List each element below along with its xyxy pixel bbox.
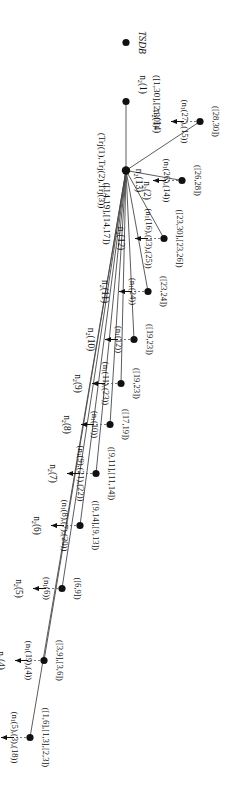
node-dot-leaf-10 xyxy=(160,234,167,241)
node-interval-n213: ([26,28]) xyxy=(194,165,203,196)
node-members-n212: (n1(16),(13),(25)) xyxy=(143,208,153,268)
node-dot-leaf-11 xyxy=(178,176,185,183)
node-label-n28: n2(8) xyxy=(61,415,71,434)
node-interval-n23: ([1,6],[1,3],[2,3]) xyxy=(42,707,51,766)
node-label-n25: n2(5) xyxy=(13,579,23,598)
node-interval-n29: ([19,23]) xyxy=(133,368,142,399)
node-label-n211: n2(11) xyxy=(99,279,109,302)
node-dot-mid xyxy=(122,97,129,104)
node-members-n23: (n1(5),(3),(18)) xyxy=(9,711,19,763)
node-members-n210: (n1(12)) xyxy=(113,325,123,352)
node-members-n28: (n1(10)) xyxy=(89,410,99,437)
node-members-n29: (n1(11),(23)) xyxy=(100,361,110,404)
node-interval-n2-2: ([14,19],[14,17]) xyxy=(101,182,110,244)
node-interval-n211: ([23,24]) xyxy=(160,276,169,307)
node-label-n26: n2(6) xyxy=(31,516,41,535)
node-members-n214: (n1(27),(15)) xyxy=(179,99,189,143)
node-interval-n214: ([28,30]) xyxy=(212,106,221,137)
node-interval-n25: ([6,9]) xyxy=(74,577,83,599)
node-dot-leaf-4 xyxy=(76,521,83,528)
node-label-n27: n2(7) xyxy=(47,464,57,483)
node-dot-leaf-1 xyxy=(26,733,33,740)
node-dot-leaf-9 xyxy=(144,287,151,294)
node-label-n29: n2(9) xyxy=(72,374,82,393)
node-interval-n27: ([9,11],[11,14]) xyxy=(108,446,117,499)
tsdb-label: TSDB xyxy=(137,31,147,54)
node-dot-hub xyxy=(122,166,130,174)
node-members-n26: (n1(8),(7),(20)) xyxy=(59,499,69,551)
node-interval-n28: ([17,19]) xyxy=(122,409,131,440)
node-dot-leaf-3 xyxy=(58,584,65,591)
tree-diagram: TSDB n2(1) ([1,30],[2,30]) n2(2) (Trj(1)… xyxy=(0,0,252,789)
figure-canvas: TSDB n2(1) ([1,30],[2,30]) n2(2) (Trj(1)… xyxy=(0,0,252,789)
node-interval-n24: ([3,9],[3,6]) xyxy=(56,640,65,681)
node-dot-leaf-5 xyxy=(92,469,99,476)
node-dot-root xyxy=(122,38,129,45)
node-label-n213: n2(13) xyxy=(133,168,143,191)
node-members-n25: (n1(6)) xyxy=(41,577,51,600)
node-label-n210: n2(10) xyxy=(85,327,95,350)
node-members-n24: (n1(19),(4)) xyxy=(23,640,33,679)
node-members-n27: (n1(9),(21),(22)) xyxy=(75,445,85,501)
node-dot-leaf-12 xyxy=(196,117,203,124)
edge-hub-leaf-8 xyxy=(126,170,134,339)
node-label-n24: n2(4) xyxy=(0,651,5,670)
node-dot-leaf-2 xyxy=(40,656,47,663)
node-label-n214: n2(14) xyxy=(151,109,161,132)
edge-hub-leaf-2 xyxy=(44,170,126,660)
node-interval-n26: ([9,14],[9,13]) xyxy=(92,500,101,549)
node-dot-leaf-7 xyxy=(117,379,124,386)
node-label-n2-1: n2(1) xyxy=(137,75,147,94)
node-dot-leaf-8 xyxy=(130,335,137,342)
node-interval-n212: ([23,30],[23,26]) xyxy=(176,209,185,267)
node-interval-n210: ([19,23]) xyxy=(146,324,155,355)
node-label-n212: n2(12) xyxy=(115,226,125,249)
node-members-n213: (n1(26),(14)) xyxy=(161,158,171,202)
node-members-n211: (n1(24)) xyxy=(127,277,137,304)
node-dot-leaf-6 xyxy=(106,420,113,427)
